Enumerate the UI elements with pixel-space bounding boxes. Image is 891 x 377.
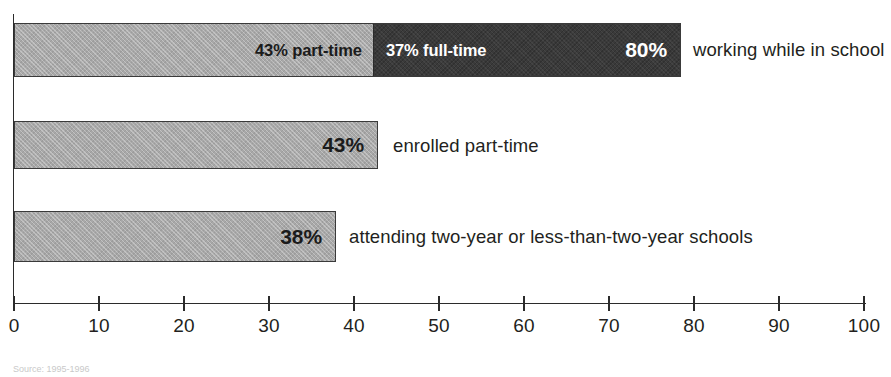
bar-total-label-working-while-in-school: 80% <box>625 38 680 62</box>
x-axis-tick-label-50: 50 <box>428 315 450 337</box>
x-axis-tick-0 <box>13 296 15 311</box>
x-axis-tick-20 <box>183 296 185 311</box>
bar-segment-label-part-time: 43% part-time <box>255 41 373 60</box>
bar-chart: 43% part-time 37% full-time 80% working … <box>0 0 891 377</box>
bar-total-label-attending-two-year: 38% <box>280 225 335 249</box>
x-axis-tick-70 <box>608 296 610 311</box>
bar-attending-two-year[interactable]: 38% <box>14 211 336 262</box>
x-axis-tick-label-60: 60 <box>513 315 535 337</box>
x-axis-tick-label-0: 0 <box>9 315 20 337</box>
x-axis-tick-50 <box>438 296 440 311</box>
x-axis-tick-60 <box>523 296 525 311</box>
bar-enrolled-part-time[interactable]: 43% <box>14 121 378 169</box>
bar-category-label-attending-two-year: attending two-year or less-than-two-year… <box>349 226 753 248</box>
x-axis-tick-label-30: 30 <box>258 315 280 337</box>
bar-segment-part-time[interactable]: 43% part-time <box>15 24 373 76</box>
x-axis-tick-label-70: 70 <box>598 315 620 337</box>
bar-total-label-enrolled-part-time: 43% <box>322 133 377 157</box>
x-axis-tick-40 <box>353 296 355 311</box>
x-axis-tick-label-90: 90 <box>768 315 790 337</box>
x-axis-tick-label-40: 40 <box>343 315 365 337</box>
bar-category-label-enrolled-part-time: enrolled part-time <box>393 135 539 157</box>
x-axis-tick-label-20: 20 <box>173 315 195 337</box>
bar-category-label-working-while-in-school: working while in school <box>693 39 885 61</box>
bar-segment-enrolled-part-time[interactable]: 43% <box>15 122 377 168</box>
bar-working-while-in-school[interactable]: 43% part-time 37% full-time 80% <box>14 23 681 77</box>
x-axis-tick-30 <box>268 296 270 311</box>
x-axis-tick-label-100: 100 <box>848 315 880 337</box>
x-axis-tick-100 <box>863 296 865 311</box>
x-axis-tick-label-10: 10 <box>88 315 110 337</box>
plot-area: 43% part-time 37% full-time 80% working … <box>0 0 891 310</box>
bar-segment-attending-two-year[interactable]: 38% <box>15 212 335 261</box>
source-footnote: Source: 1995-1996 <box>13 364 90 374</box>
x-axis-tick-10 <box>98 296 100 311</box>
y-axis-line <box>13 14 14 305</box>
bar-segment-full-time[interactable]: 37% full-time 80% <box>373 24 680 76</box>
x-axis-tick-80 <box>693 296 695 311</box>
x-axis-tick-label-80: 80 <box>683 315 705 337</box>
x-axis-tick-90 <box>778 296 780 311</box>
bar-segment-label-full-time: 37% full-time <box>386 41 486 60</box>
